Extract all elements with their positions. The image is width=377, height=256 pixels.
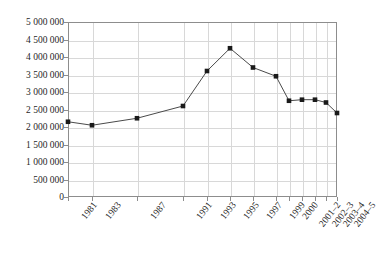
data-point-marker [324, 100, 329, 105]
data-point-marker [251, 65, 256, 70]
data-point-marker [313, 97, 318, 102]
data-point-marker [90, 123, 95, 128]
data-point-marker [181, 104, 186, 109]
data-point-marker [274, 74, 279, 79]
data-point-marker [135, 116, 140, 121]
series-polyline [68, 48, 337, 125]
data-point-marker [66, 119, 71, 124]
data-point-marker [287, 98, 292, 103]
data-point-marker [228, 46, 233, 51]
data-point-marker [300, 97, 305, 102]
series-markers [66, 46, 340, 128]
data-point-marker [205, 69, 210, 74]
data-point-marker [335, 111, 340, 116]
